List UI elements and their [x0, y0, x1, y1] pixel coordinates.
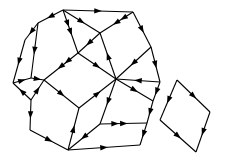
edge-arrowhead — [64, 19, 69, 27]
edge-arrowhead — [111, 121, 119, 126]
edge-arrowhead — [120, 121, 128, 126]
edge-arrowhead — [107, 97, 112, 105]
edge-arrowhead — [107, 52, 112, 60]
edge-arrowhead — [202, 128, 207, 136]
edge-arrowhead — [67, 27, 72, 35]
edge-arrowhead — [18, 79, 26, 84]
edge-arrowhead — [92, 62, 100, 68]
edge-arrowhead — [138, 25, 144, 33]
edge-arrowhead — [44, 136, 52, 142]
edge-arrowhead — [77, 17, 85, 23]
edge-arrowhead — [94, 8, 102, 13]
directed-graph-canvas — [0, 0, 225, 163]
edge-arrowhead — [155, 87, 160, 95]
figure-root — [0, 0, 225, 163]
edge-arrowhead — [152, 60, 157, 68]
edge-arrowhead — [28, 111, 33, 119]
arrowhead-layer — [17, 8, 206, 150]
edge-arrowhead — [167, 95, 172, 103]
edge-arrowhead — [130, 86, 138, 92]
edge-arrowhead — [70, 125, 75, 133]
edge-arrowhead — [148, 108, 153, 116]
edge-layer — [13, 10, 210, 152]
edge-arrowhead — [113, 18, 121, 24]
edge-arrowhead — [142, 130, 147, 138]
edge-arrowhead — [33, 87, 39, 95]
edge-arrowhead — [32, 46, 37, 54]
edge-arrowhead — [17, 57, 22, 65]
edge-arrowhead — [47, 12, 55, 18]
edge-arrowhead — [120, 14, 128, 20]
edge-arrowhead — [29, 27, 36, 35]
edge-arrowhead — [33, 76, 41, 81]
